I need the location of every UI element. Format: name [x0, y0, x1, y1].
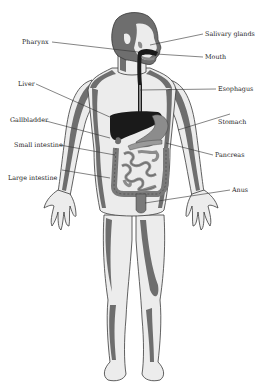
digestive-system-diagram: PharynxSalivary glandsMouthLiverEsophagu… — [0, 0, 260, 386]
label-text-large-intestine: Large intestine — [8, 174, 58, 182]
label-text-small-intestine: Small intestine — [14, 141, 63, 149]
label-text-gallbladder: Gallbladder — [10, 116, 49, 124]
left-hand — [44, 190, 76, 230]
label-text-anus: Anus — [231, 186, 248, 194]
label-mouth: Mouth — [156, 53, 226, 61]
label-salivary-glands: Salivary glands — [150, 30, 255, 45]
label-text-mouth: Mouth — [205, 53, 226, 61]
label-text-salivary-glands: Salivary glands — [205, 30, 255, 38]
label-text-pharynx: Pharynx — [22, 38, 49, 46]
anus-organ — [136, 194, 146, 213]
leader-line-mouth — [156, 54, 203, 57]
label-pancreas: Pancreas — [166, 143, 244, 159]
label-text-stomach: Stomach — [218, 118, 246, 126]
label-text-pancreas: Pancreas — [215, 151, 244, 159]
label-text-esophagus: Esophagus — [218, 85, 253, 93]
label-text-liver: Liver — [18, 80, 36, 88]
diagram-canvas: PharynxSalivary glandsMouthLiverEsophagu… — [0, 0, 260, 386]
